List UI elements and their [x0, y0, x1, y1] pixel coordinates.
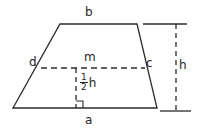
right-angle-marker [76, 101, 83, 108]
fraction-one-half: 1 2 [80, 73, 88, 93]
fraction-numerator: 1 [80, 73, 88, 82]
trapezoid-figure: b a d c m h 1 2 h [0, 0, 198, 131]
label-bottom-base-a: a [85, 114, 92, 126]
label-left-midpoint-d: d [29, 56, 37, 68]
label-height-h: h [179, 59, 187, 71]
label-right-midpoint-c: c [146, 57, 153, 69]
half-height-variable: h [89, 77, 97, 89]
label-midsegment-m: m [84, 51, 96, 63]
label-top-base-b: b [85, 6, 93, 18]
fraction-denominator: 2 [80, 82, 88, 92]
label-half-height: 1 2 h [80, 73, 96, 93]
